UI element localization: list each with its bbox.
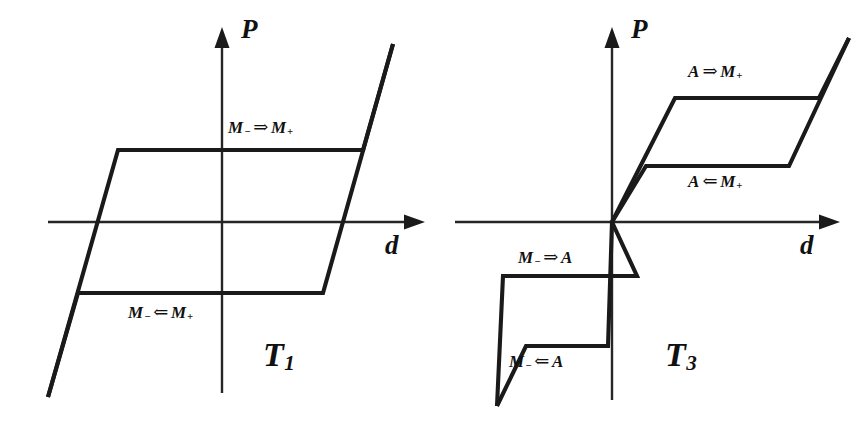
transition-to-sub: + [736,70,743,81]
x-axis-label-T1: d [385,232,399,259]
transition-from: A [688,62,700,81]
panel-name-letter: T [665,336,686,373]
transition-to: M [271,118,287,137]
panel-T1-graphic [0,0,434,423]
panel-name-T3: T3 [665,338,697,374]
x-axis-T3 [455,215,840,230]
transition-to: A [552,352,564,371]
transition-from: M [128,303,144,322]
panel-name-T1: T1 [263,338,295,374]
transition-from: A [688,172,700,191]
panel-T1: P d M−⇒M+ M−⇐M+ T1 [0,0,434,423]
panel-name-sub: 1 [284,351,295,375]
transition-to-sub: + [187,311,194,322]
transition-label-upper-T1: M−⇒M+ [228,118,294,137]
double-arrow-right-icon: ⇒ [251,117,271,137]
x-axis-label-T3: d [800,232,814,259]
transition-label-lower-outer-T3: M−⇒A [518,248,573,267]
double-arrow-right-icon: ⇒ [541,247,561,267]
transition-from: M [228,118,244,137]
transition-label-upper-inner-T3: A⇐M+ [688,172,743,191]
double-arrow-left-icon: ⇐ [700,171,720,191]
transition-to-sub: + [736,180,743,191]
hysteresis-figure: P d M−⇒M+ M−⇐M+ T1 [0,0,867,423]
transition-from: M [509,352,525,371]
panel-T3-graphic [434,0,867,423]
transition-to-sub [573,256,574,267]
double-arrow-left-icon: ⇐ [532,351,552,371]
double-arrow-left-icon: ⇐ [151,302,171,322]
panel-name-letter: T [263,336,284,373]
y-axis-label-T3: P [631,16,648,43]
transition-label-lower-T1: M−⇐M+ [128,303,194,322]
loop-upper-branch-T1 [48,44,393,397]
transition-label-lower-inner-T3: M−⇐A [509,352,564,371]
transition-to: M [720,172,736,191]
transition-to-sub [564,360,565,371]
transition-to-sub: + [287,126,294,137]
transition-to: M [720,62,736,81]
transition-to: M [171,303,187,322]
y-axis-T1 [215,27,230,393]
y-axis-label-T1: P [241,16,258,43]
double-arrow-right-icon: ⇒ [700,61,720,81]
panel-name-sub: 3 [686,351,697,375]
transition-to: A [561,248,573,267]
transition-from: M [518,248,534,267]
transition-label-upper-outer-T3: A⇒M+ [688,62,743,81]
x-axis-T1 [48,215,425,230]
panel-T3: P d A⇒M+ A⇐M+ M−⇒A M−⇐A T3 [434,0,867,423]
